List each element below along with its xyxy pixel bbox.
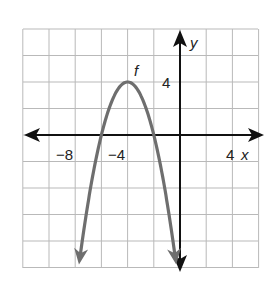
x-tick-4: 4 — [226, 146, 234, 163]
y-tick-4: 4 — [162, 74, 170, 91]
x-axis-label: x — [240, 146, 249, 163]
x-tick-neg4: −4 — [108, 146, 125, 163]
graph-canvas: −8 −4 4 x 4 y f — [0, 0, 271, 284]
y-axis-label: y — [189, 34, 199, 51]
x-tick-neg8: −8 — [56, 146, 73, 163]
function-label-f: f — [134, 62, 140, 79]
tick-labels: −8 −4 4 x 4 y f — [56, 34, 249, 163]
